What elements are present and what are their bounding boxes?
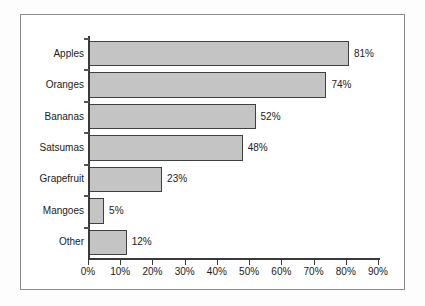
x-axis-tick <box>88 260 89 265</box>
x-axis-tick <box>120 260 121 265</box>
x-axis-tick <box>346 260 347 265</box>
category-label-mangoes: Mangoes <box>43 206 84 216</box>
category-slot: Oranges <box>22 72 84 97</box>
bar-grapefruit <box>88 167 162 192</box>
plot-area: 81% 74% 52% 48% 23% 5% 12% <box>88 38 378 258</box>
y-axis-tick <box>84 132 89 134</box>
bar-value-bananas: 52% <box>261 112 281 122</box>
bar-row: 12% <box>88 230 378 255</box>
y-axis-tick <box>84 164 89 166</box>
bar-satsumas <box>88 135 243 160</box>
category-slot: Other <box>22 230 84 255</box>
category-slot: Apples <box>22 41 84 66</box>
category-slot: Mangoes <box>22 198 84 223</box>
bar-bananas <box>88 104 256 129</box>
x-axis-tick <box>314 260 315 265</box>
bar-value-mangoes: 5% <box>109 206 123 216</box>
bar-apples <box>88 41 349 66</box>
bar-value-oranges: 74% <box>331 80 351 90</box>
bar-value-other: 12% <box>132 237 152 247</box>
category-label-apples: Apples <box>53 49 84 59</box>
category-slot: Bananas <box>22 104 84 129</box>
y-axis-tick <box>84 195 89 197</box>
bar-row: 81% <box>88 41 378 66</box>
y-axis-tick <box>84 101 89 103</box>
bar-other <box>88 230 127 255</box>
bar-row: 23% <box>88 167 378 192</box>
x-axis-tick-label: 30% <box>175 267 195 277</box>
x-axis-tick-label: 50% <box>239 267 259 277</box>
x-axis-tick-label: 90% <box>368 267 388 277</box>
bar-row: 48% <box>88 135 378 160</box>
x-axis-tick-label: 70% <box>304 267 324 277</box>
bar-row: 52% <box>88 104 378 129</box>
x-axis-tick <box>217 260 218 265</box>
x-axis-tick <box>281 260 282 265</box>
y-axis-tick <box>84 69 89 71</box>
x-axis-tick <box>152 260 153 265</box>
x-axis-line <box>88 258 380 260</box>
x-axis-tick-label: 60% <box>271 267 291 277</box>
y-axis-tick <box>84 227 89 229</box>
category-label-satsumas: Satsumas <box>40 143 84 153</box>
category-slot: Grapefruit <box>22 167 84 192</box>
bar-oranges <box>88 72 326 97</box>
bar-mangoes <box>88 198 104 223</box>
y-axis-tick <box>84 38 89 40</box>
category-slot: Satsumas <box>22 135 84 160</box>
x-axis-tick <box>185 260 186 265</box>
bar-row: 74% <box>88 72 378 97</box>
x-axis-tick <box>378 260 379 265</box>
category-axis-labels: Apples Oranges Bananas Satsumas Grapefru… <box>22 38 84 258</box>
x-axis-tick-label: 0% <box>81 267 95 277</box>
category-label-other: Other <box>59 237 84 247</box>
x-axis-tick-label: 80% <box>336 267 356 277</box>
x-axis-tick-label: 20% <box>142 267 162 277</box>
bar-value-satsumas: 48% <box>248 143 268 153</box>
x-axis-tick <box>249 260 250 265</box>
bar-chart: Apples Oranges Bananas Satsumas Grapefru… <box>0 0 425 306</box>
category-label-oranges: Oranges <box>46 80 84 90</box>
bar-value-grapefruit: 23% <box>167 174 187 184</box>
x-axis-tick-label: 40% <box>207 267 227 277</box>
category-label-bananas: Bananas <box>45 112 84 122</box>
x-axis-tick-label: 10% <box>110 267 130 277</box>
category-label-grapefruit: Grapefruit <box>40 174 84 184</box>
bar-value-apples: 81% <box>354 49 374 59</box>
bar-row: 5% <box>88 198 378 223</box>
